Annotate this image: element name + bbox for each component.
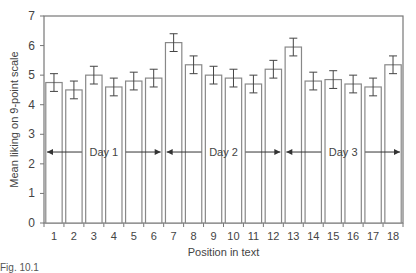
bar-6 bbox=[146, 78, 162, 223]
x-tick-label: 2 bbox=[71, 230, 77, 242]
y-tick-label: 2 bbox=[28, 157, 35, 171]
y-axis-label: Mean liking on 9-point scale bbox=[8, 51, 20, 187]
x-axis-label: Position in text bbox=[188, 246, 260, 258]
bar-13 bbox=[285, 47, 301, 223]
bar-11 bbox=[245, 84, 261, 223]
x-tick-label: 5 bbox=[131, 230, 137, 242]
day-label-3: Day 3 bbox=[329, 146, 358, 158]
x-tick-label: 8 bbox=[191, 230, 197, 242]
bar-7 bbox=[165, 43, 181, 223]
bar-1 bbox=[46, 83, 62, 223]
y-tick-label: 4 bbox=[28, 98, 35, 112]
bar-18 bbox=[385, 65, 401, 223]
x-tick-label: 12 bbox=[267, 230, 279, 242]
y-tick-label: 6 bbox=[28, 39, 35, 53]
bar-17 bbox=[365, 87, 381, 223]
x-tick-label: 9 bbox=[210, 230, 216, 242]
day-label-2: Day 2 bbox=[209, 146, 238, 158]
day-label-1: Day 1 bbox=[89, 146, 118, 158]
x-tick-label: 6 bbox=[151, 230, 157, 242]
y-tick-label: 7 bbox=[28, 9, 35, 23]
x-tick-label: 15 bbox=[327, 230, 339, 242]
y-tick-label: 5 bbox=[28, 68, 35, 82]
y-tick-label: 0 bbox=[28, 216, 35, 230]
y-tick-label: 1 bbox=[28, 186, 35, 200]
y-tick-label: 3 bbox=[28, 127, 35, 141]
bar-2 bbox=[66, 90, 82, 223]
x-tick-label: 3 bbox=[91, 230, 97, 242]
x-tick-label: 10 bbox=[227, 230, 239, 242]
bar-12 bbox=[265, 69, 281, 223]
x-tick-label: 11 bbox=[248, 230, 259, 242]
x-tick-label: 13 bbox=[287, 230, 299, 242]
x-tick-label: 17 bbox=[367, 230, 379, 242]
x-tick-label: 18 bbox=[387, 230, 399, 242]
x-tick-label: 1 bbox=[51, 230, 57, 242]
x-tick-label: 16 bbox=[347, 230, 359, 242]
x-tick-label: 7 bbox=[171, 230, 177, 242]
figure-caption: Fig. 10.1 bbox=[0, 262, 39, 273]
x-tick-label: 14 bbox=[307, 230, 319, 242]
x-tick-label: 4 bbox=[111, 230, 117, 242]
bar-8 bbox=[185, 65, 201, 223]
